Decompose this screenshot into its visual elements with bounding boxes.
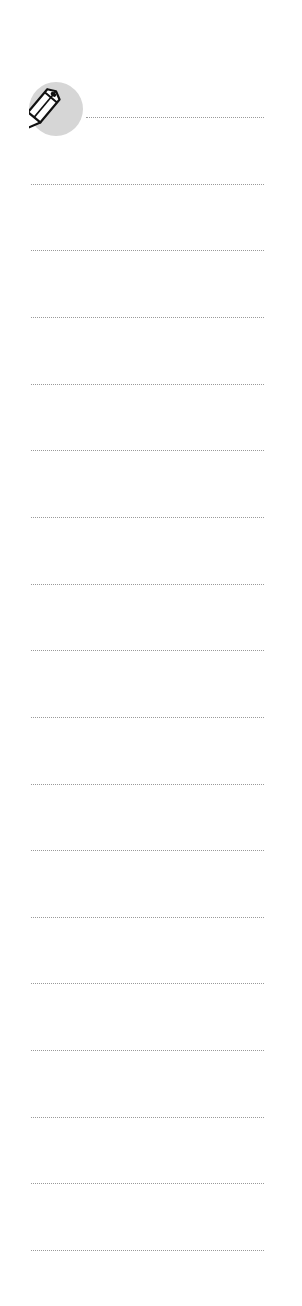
writing-line xyxy=(31,983,264,984)
writing-line xyxy=(86,117,264,118)
writing-line xyxy=(31,650,264,651)
writing-line xyxy=(31,450,264,451)
writing-line xyxy=(31,317,264,318)
writing-line xyxy=(31,517,264,518)
writing-line xyxy=(31,784,264,785)
writing-line xyxy=(31,384,264,385)
pencil-icon xyxy=(29,82,83,136)
writing-line xyxy=(31,1183,264,1184)
note-page xyxy=(0,0,302,1306)
writing-line xyxy=(31,1050,264,1051)
writing-line xyxy=(31,584,264,585)
writing-line xyxy=(31,250,264,251)
writing-line xyxy=(31,1250,264,1251)
writing-line xyxy=(31,917,264,918)
writing-line xyxy=(31,850,264,851)
writing-line xyxy=(31,184,264,185)
writing-line xyxy=(31,717,264,718)
writing-line xyxy=(31,1117,264,1118)
